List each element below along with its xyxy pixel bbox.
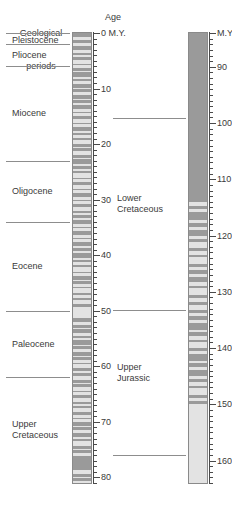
axis-tick-minor-53 bbox=[93, 327, 97, 328]
axis-tick-minor-105 bbox=[209, 151, 213, 152]
axis-tick-minor-2 bbox=[93, 44, 97, 45]
axis-tick-minor-28 bbox=[93, 189, 97, 190]
axis-tick-minor-71 bbox=[93, 427, 97, 428]
axis-tick-major-80 bbox=[93, 477, 100, 478]
axis-tick-minor-149 bbox=[209, 399, 213, 400]
axis-tick-minor-146 bbox=[209, 382, 213, 383]
axis-tick-minor-125 bbox=[209, 264, 213, 265]
axis-tick-minor-136 bbox=[209, 326, 213, 327]
axis-tick-minor-133 bbox=[209, 309, 213, 310]
axis-tick-minor-86 bbox=[209, 44, 213, 45]
axis-tick-minor-72 bbox=[93, 433, 97, 434]
axis-tick-label-110: 110 bbox=[217, 175, 231, 184]
polarity-stripe bbox=[189, 257, 207, 264]
axis-tick-minor-127 bbox=[209, 275, 213, 276]
axis-tick-minor-128 bbox=[209, 281, 213, 282]
axis-tick-minor-157 bbox=[209, 444, 213, 445]
period-label-paleocene: Paleocene bbox=[12, 339, 68, 350]
axis-tick-major-40 bbox=[93, 255, 100, 256]
axis-tick-major-90 bbox=[209, 67, 216, 68]
axis-tick-minor-111 bbox=[209, 185, 213, 186]
axis-tick-minor-63 bbox=[93, 383, 97, 384]
axis-tick-minor-122 bbox=[209, 247, 213, 248]
axis-tick-minor-17 bbox=[93, 127, 97, 128]
axis-tick-minor-23 bbox=[93, 161, 97, 162]
mesozoic-boundary-rule bbox=[113, 455, 186, 456]
axis-tick-minor-66 bbox=[93, 400, 97, 401]
axis-tick-minor-93 bbox=[209, 84, 213, 85]
axis-tick-major-30 bbox=[93, 200, 100, 201]
period-label-line: Pliocene bbox=[12, 50, 68, 61]
axis-tick-minor-112 bbox=[209, 191, 213, 192]
period-label-line: Upper bbox=[117, 362, 184, 373]
axis-tick-major-84 bbox=[209, 33, 216, 34]
axis-tick-minor-106 bbox=[209, 157, 213, 158]
axis-tick-minor-161 bbox=[209, 466, 213, 467]
geologic-time-scale-figure: Geological periods Age PleistocenePlioce… bbox=[0, 0, 232, 508]
axis-tick-minor-45 bbox=[93, 283, 97, 284]
mesozoic-boundary-rule bbox=[113, 118, 186, 119]
axis-tick-minor-89 bbox=[209, 61, 213, 62]
axis-tick-minor-98 bbox=[209, 112, 213, 113]
axis-tick-minor-162 bbox=[209, 472, 213, 473]
axis-tick-major-140 bbox=[209, 348, 216, 349]
cenozoic-age-axis: 0 M.Y.1020304050607080 bbox=[93, 32, 107, 484]
period-boundary-rule bbox=[6, 161, 70, 162]
axis-tick-minor-91 bbox=[209, 72, 213, 73]
period-label-pleistocene: Pleistocene bbox=[12, 35, 68, 46]
axis-tick-major-50 bbox=[93, 311, 100, 312]
axis-tick-minor-6 bbox=[93, 66, 97, 67]
axis-tick-minor-74 bbox=[93, 444, 97, 445]
axis-tick-minor-119 bbox=[209, 230, 213, 231]
period-label-pliocene: Pliocene bbox=[12, 50, 68, 61]
axis-tick-minor-121 bbox=[209, 241, 213, 242]
axis-tick-major-120 bbox=[209, 236, 216, 237]
period-label-upper-jurassic: UpperJurassic bbox=[117, 362, 184, 384]
axis-tick-minor-14 bbox=[93, 111, 97, 112]
axis-tick-minor-73 bbox=[93, 439, 97, 440]
axis-tick-label-20: 20 bbox=[101, 140, 111, 149]
axis-tick-minor-164 bbox=[209, 483, 213, 484]
axis-tick-label-120: 120 bbox=[217, 232, 232, 241]
axis-tick-minor-77 bbox=[93, 461, 97, 462]
axis-tick-minor-51 bbox=[93, 316, 97, 317]
axis-tick-minor-55 bbox=[93, 339, 97, 340]
axis-tick-minor-19 bbox=[93, 139, 97, 140]
axis-tick-minor-142 bbox=[209, 359, 213, 360]
axis-tick-minor-9 bbox=[93, 83, 97, 84]
axis-tick-minor-26 bbox=[93, 177, 97, 178]
axis-tick-major-20 bbox=[93, 144, 100, 145]
polarity-stripe bbox=[189, 323, 207, 330]
axis-tick-minor-56 bbox=[93, 344, 97, 345]
axis-tick-minor-117 bbox=[209, 219, 213, 220]
axis-tick-minor-29 bbox=[93, 194, 97, 195]
axis-tick-major-160 bbox=[209, 461, 216, 462]
period-label-line: Eocene bbox=[12, 261, 68, 272]
axis-tick-minor-65 bbox=[93, 394, 97, 395]
axis-tick-minor-99 bbox=[209, 117, 213, 118]
axis-tick-minor-48 bbox=[93, 300, 97, 301]
axis-tick-minor-38 bbox=[93, 244, 97, 245]
axis-tick-minor-39 bbox=[93, 250, 97, 251]
axis-tick-minor-24 bbox=[93, 166, 97, 167]
axis-tick-minor-135 bbox=[209, 320, 213, 321]
axis-tick-minor-118 bbox=[209, 224, 213, 225]
axis-tick-minor-46 bbox=[93, 289, 97, 290]
axis-tick-minor-64 bbox=[93, 389, 97, 390]
axis-tick-label-MY: M.Y. bbox=[217, 29, 232, 38]
axis-tick-major-100 bbox=[209, 123, 216, 124]
period-label-oligocene: Oligocene bbox=[12, 186, 68, 197]
axis-tick-minor-156 bbox=[209, 438, 213, 439]
axis-tick-label-130: 130 bbox=[217, 288, 232, 297]
axis-tick-minor-44 bbox=[93, 277, 97, 278]
axis-tick-minor-18 bbox=[93, 133, 97, 134]
period-label-line: Miocene bbox=[12, 108, 68, 119]
axis-tick-minor-81 bbox=[93, 483, 97, 484]
period-label-line: Oligocene bbox=[12, 186, 68, 197]
axis-tick-label-100: 100 bbox=[217, 119, 232, 128]
axis-tick-minor-59 bbox=[93, 361, 97, 362]
cenozoic-polarity-bar bbox=[72, 32, 92, 484]
axis-tick-minor-92 bbox=[209, 78, 213, 79]
axis-tick-major-60 bbox=[93, 366, 100, 367]
axis-tick-label-80: 80 bbox=[101, 473, 111, 482]
